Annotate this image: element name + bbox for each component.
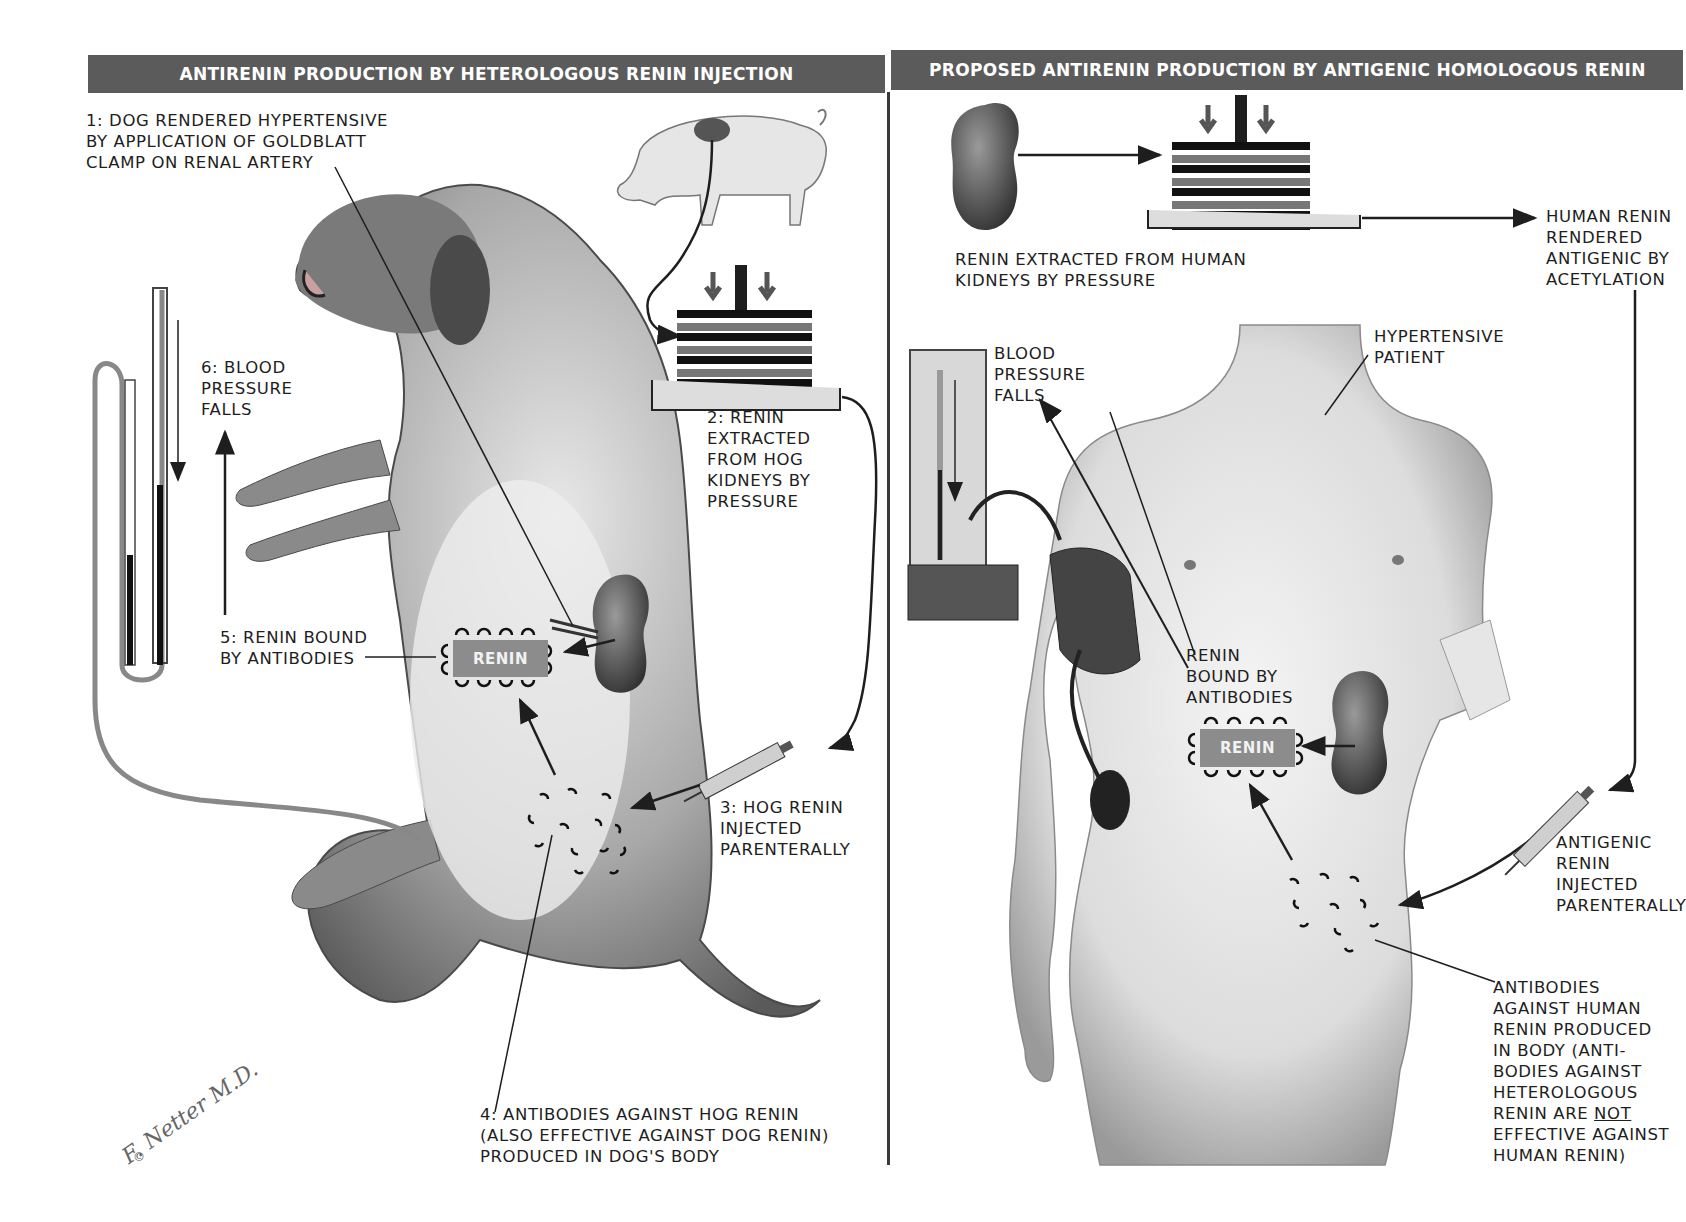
renin-box-right: RENIN: [1200, 729, 1295, 767]
label-renin-extracted-human: RENIN EXTRACTED FROM HUMAN KIDNEYS BY PR…: [955, 249, 1246, 291]
copyright-mark: ©: [133, 1150, 145, 1164]
renin-box-left: RENIN: [453, 640, 548, 677]
label-antigenic-renin-injected: ANTIGENIC RENIN INJECTED PARENTERALLY: [1556, 832, 1686, 916]
label-blood-pressure-falls: BLOOD PRESSURE FALLS: [994, 343, 1086, 406]
antibodies-text-post: EFFECTIVE AGAINST HUMAN RENIN): [1493, 1125, 1669, 1165]
label-step1-goldblatt-clamp: 1: DOG RENDERED HYPERTENSIVE BY APPLICAT…: [86, 110, 388, 173]
label-step3-hog-renin-injected: 3: HOG RENIN INJECTED PARENTERALLY: [720, 797, 850, 860]
dog-illustration: [236, 185, 820, 1017]
label-antibodies-against-human-renin: ANTIBODIES AGAINST HUMAN RENIN PRODUCED …: [1493, 977, 1669, 1166]
label-hypertensive-patient: HYPERTENSIVE PATIENT: [1374, 326, 1504, 368]
antibodies-text-not: NOT: [1594, 1104, 1631, 1123]
renin-press-right: [1148, 95, 1360, 230]
label-renin-bound-by-antibodies: RENIN BOUND BY ANTIBODIES: [1186, 645, 1293, 708]
dog-kidney: [593, 574, 649, 692]
hog-illustration: [618, 110, 827, 225]
renin-press-left: [652, 265, 840, 410]
label-step5-renin-bound: 5: RENIN BOUND BY ANTIBODIES: [220, 627, 368, 669]
antibodies-text-pre: ANTIBODIES AGAINST HUMAN RENIN PRODUCED …: [1493, 978, 1652, 1123]
patient-kidney: [1331, 671, 1388, 794]
label-step4-antibodies: 4: ANTIBODIES AGAINST HOG RENIN (ALSO EF…: [480, 1104, 829, 1167]
human-kidney-top: [951, 103, 1019, 230]
label-acetylation: HUMAN RENIN RENDERED ANTIGENIC BY ACETYL…: [1546, 206, 1672, 290]
label-step2-renin-extracted: 2: RENIN EXTRACTED FROM HOG KIDNEYS BY P…: [707, 407, 810, 512]
label-step6-blood-pressure-falls: 6: BLOOD PRESSURE FALLS: [201, 357, 293, 420]
